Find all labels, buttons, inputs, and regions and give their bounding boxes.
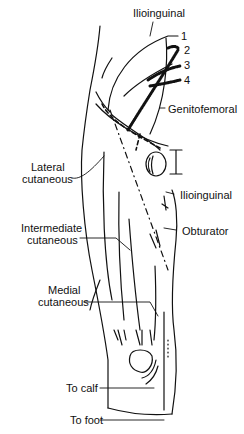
- thigh-nerve-diagram: [0, 0, 244, 434]
- label-medial-cutaneous-1: Medial: [48, 284, 80, 296]
- number-4: 4: [184, 74, 190, 86]
- saphenous-opening: [146, 150, 182, 176]
- label-ilioinguinal-mid: Ilioinguinal: [180, 189, 232, 201]
- patella: [129, 350, 152, 372]
- leader-lines: [72, 22, 176, 420]
- number-3: 3: [184, 59, 190, 71]
- number-1: 1: [181, 30, 187, 42]
- label-ilioinguinal-top: Ilioinguinal: [133, 7, 185, 19]
- label-lateral-cutaneous-1: Lateral: [31, 161, 65, 173]
- nerve-roots: [128, 47, 180, 131]
- label-lateral-cutaneous-2: cutaneous: [22, 173, 73, 185]
- inguinal-region: [96, 36, 178, 150]
- label-obturator: Obturator: [182, 225, 228, 237]
- label-genitofemoral: Genitofemoral: [168, 103, 237, 115]
- number-2: 2: [184, 44, 190, 56]
- label-to-foot: To foot: [70, 414, 103, 426]
- label-medial-cutaneous-2: cutaneous: [38, 296, 89, 308]
- label-to-calf: To calf: [66, 382, 98, 394]
- label-intermediate-cutaneous-1: Intermediate: [21, 222, 82, 234]
- label-intermediate-cutaneous-2: cutaneous: [27, 234, 78, 246]
